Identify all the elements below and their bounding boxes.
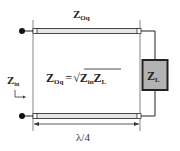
length-dimension-arrow <box>34 122 139 126</box>
load-wire-bottom <box>141 90 155 116</box>
input-terminal-top <box>19 28 25 34</box>
input-direction-arrow-icon <box>15 90 26 99</box>
input-impedance-label: Zin <box>7 74 20 87</box>
load-wire-top <box>141 31 155 60</box>
length-label: λ/4 <box>76 131 90 143</box>
top-transmission-line <box>22 29 141 34</box>
quarter-wave-diagram: ZL ZOq Zin ZOq=√ZinZL λ/4 <box>0 0 180 151</box>
impedance-equation: ZOq=√ZinZL <box>46 71 107 86</box>
line-impedance-label: ZOq <box>73 8 90 22</box>
input-terminal-bottom <box>19 113 25 119</box>
bottom-transmission-line <box>22 114 141 119</box>
